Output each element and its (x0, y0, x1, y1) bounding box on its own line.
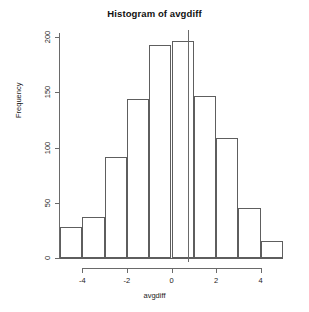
y-axis-tick-label: 200 (44, 0, 52, 165)
y-axis (52, 33, 60, 258)
bar-baseline (60, 258, 283, 259)
histogram-plot: Histogram of avgdiff 050100150200 Freque… (0, 0, 309, 312)
x-axis-tick (261, 268, 262, 273)
x-axis-tick (216, 268, 217, 273)
plot-area (60, 30, 283, 258)
x-axis-tick-label: -4 (79, 276, 86, 285)
x-axis-tick (172, 268, 173, 273)
x-axis-title: avgdiff (0, 291, 309, 300)
y-axis-title: Frequency (14, 83, 23, 118)
x-axis-tick-label: 4 (259, 276, 263, 285)
x-axis-tick (82, 268, 83, 273)
x-axis-tick-label: 0 (169, 276, 173, 285)
x-axis: -4-2024 (60, 268, 283, 276)
x-axis-tick-label: -2 (124, 276, 131, 285)
x-axis-tick-label: 2 (214, 276, 218, 285)
reference-line-layer (60, 30, 283, 258)
vertical-reference-line (188, 30, 189, 262)
x-axis-tick (127, 268, 128, 273)
